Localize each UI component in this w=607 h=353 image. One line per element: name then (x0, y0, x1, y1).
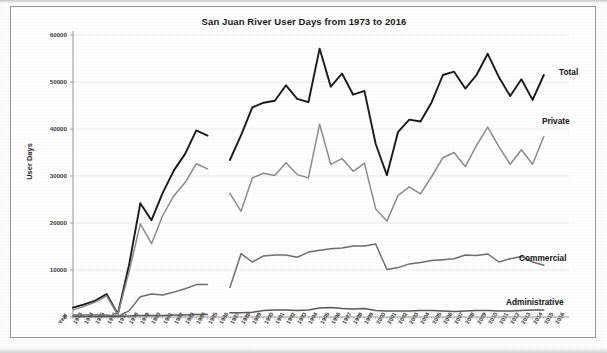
series-label-commercial: Commercial (519, 253, 567, 263)
series-label-private: Private (542, 116, 570, 126)
series-label-administrative: Administrative (506, 297, 564, 307)
screenshot-page: San Juan River User Days from 1973 to 20… (0, 0, 607, 353)
scan-edge-bottom (0, 348, 607, 353)
chart-frame: San Juan River User Days from 1973 to 20… (10, 6, 596, 338)
series-label-total: Total (559, 67, 578, 77)
plot-area (11, 7, 597, 339)
scan-edge-top (0, 0, 607, 3)
